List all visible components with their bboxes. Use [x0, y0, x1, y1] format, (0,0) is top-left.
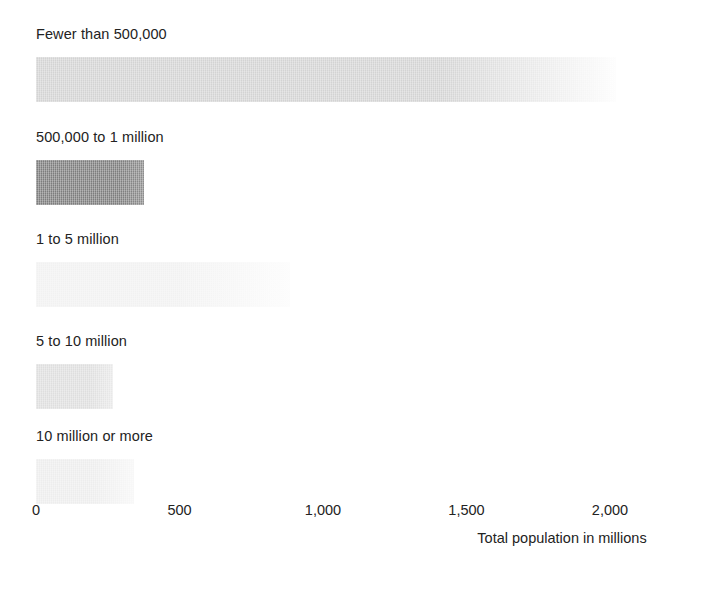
bar-chart: Fewer than 500,000 500,000 to 1 million … [0, 0, 701, 610]
category-label-3: 5 to 10 million [36, 333, 127, 349]
category-label-0: Fewer than 500,000 [36, 26, 167, 42]
bar-0 [36, 57, 616, 102]
x-axis-title: Total population in millions [477, 530, 646, 547]
category-label-1: 500,000 to 1 million [36, 129, 164, 145]
x-axis: 0 500 1,000 1,500 2,000 Total population… [0, 502, 660, 562]
x-tick-4: 2,000 [592, 502, 628, 519]
category-label-2: 1 to 5 million [36, 231, 119, 247]
bar-2 [36, 262, 290, 307]
x-tick-0: 0 [32, 502, 40, 519]
bar-3 [36, 364, 113, 409]
x-tick-2: 1,000 [305, 502, 341, 519]
bar-1 [36, 160, 144, 205]
category-label-4: 10 million or more [36, 428, 153, 444]
x-tick-1: 500 [167, 502, 191, 519]
bar-4 [36, 459, 134, 504]
x-tick-3: 1,500 [448, 502, 484, 519]
plot-area: Fewer than 500,000 500,000 to 1 million … [36, 26, 676, 516]
